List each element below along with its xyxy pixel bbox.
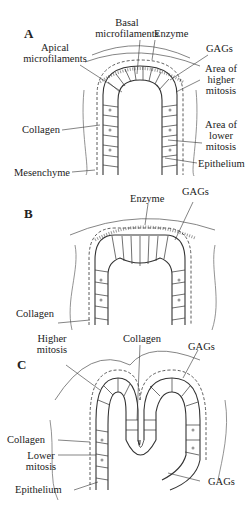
label-line: mitosis (196, 141, 246, 152)
label-line: Apical (20, 42, 90, 53)
label-lower-mitosis: Lower mitosis (18, 450, 64, 472)
label-collagen-c-left: Collagen (7, 434, 45, 445)
label-gags-a: GAGs (206, 43, 233, 54)
label-collagen-c-top: Collagen (123, 333, 161, 344)
label-gags-c-bottom: GAGs (208, 476, 235, 487)
label-higher-mitosis: Higher mitosis (28, 333, 76, 355)
label-line: Higher (28, 333, 76, 344)
label-line: Basal (92, 17, 162, 28)
panel-b-drawing (58, 202, 216, 330)
label-line: Area of (196, 119, 246, 130)
panel-c-drawing (50, 345, 227, 500)
label-line: Lower (18, 450, 64, 461)
label-apical-microfilaments: Apical microfilaments (20, 42, 90, 64)
label-area-lower-mitosis: Area of lower mitosis (196, 119, 246, 152)
panel-b-letter: B (24, 206, 33, 222)
panel-a-letter: A (24, 26, 33, 42)
label-epithelium-c: Epithelium (15, 484, 62, 495)
panel-c-letter: C (17, 357, 26, 373)
label-mesenchyme: Mesenchyme (14, 167, 70, 178)
label-line: microfilaments (92, 28, 162, 39)
label-line: mitosis (196, 85, 246, 96)
label-line: microfilaments (20, 53, 90, 64)
label-line: mitosis (18, 461, 64, 472)
label-collagen-b: Collagen (16, 308, 54, 319)
label-line: lower (196, 130, 246, 141)
label-collagen-a: Collagen (22, 124, 60, 135)
label-line: higher (196, 74, 246, 85)
label-gags-c-top: GAGs (188, 341, 215, 352)
label-basal-microfilaments: Basal microfilaments (92, 17, 162, 39)
label-area-higher-mitosis: Area of higher mitosis (196, 63, 246, 96)
label-gags-b: GAGs (182, 186, 209, 197)
label-enzyme-a: Enzyme (154, 28, 188, 39)
label-line: Area of (196, 63, 246, 74)
label-epithelium-a: Epithelium (198, 158, 245, 169)
label-line: mitosis (28, 344, 76, 355)
label-enzyme-b: Enzyme (130, 193, 164, 204)
